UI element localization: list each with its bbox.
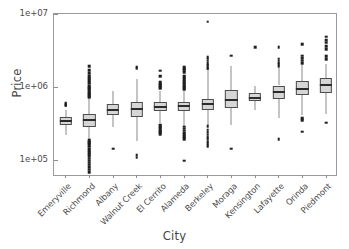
median-line bbox=[249, 97, 261, 99]
outlier-point bbox=[301, 62, 304, 65]
outlier-point bbox=[325, 48, 328, 51]
median-line bbox=[107, 109, 119, 111]
x-tick-mark bbox=[160, 175, 161, 178]
outlier-point bbox=[159, 133, 162, 136]
outlier-point bbox=[136, 154, 139, 157]
y-tick-label: 1e+07 bbox=[20, 8, 48, 18]
outlier-point bbox=[112, 148, 115, 151]
outlier-point bbox=[136, 67, 139, 70]
boxplot-el-cerrito bbox=[149, 14, 173, 175]
whisker-upper bbox=[65, 110, 66, 117]
outlier-point bbox=[278, 138, 281, 141]
outlier-point bbox=[88, 169, 91, 172]
whisker-lower bbox=[278, 99, 279, 118]
outlier-point bbox=[301, 130, 304, 133]
outlier-point bbox=[325, 42, 328, 45]
whisker-upper bbox=[184, 91, 185, 102]
outlier-point bbox=[278, 46, 281, 49]
x-tick-mark bbox=[184, 175, 185, 178]
outlier-point bbox=[88, 166, 91, 169]
whisker-upper bbox=[160, 91, 161, 103]
x-tick-mark bbox=[113, 175, 114, 178]
outlier-point bbox=[183, 71, 186, 74]
whisker-lower bbox=[207, 110, 208, 125]
whisker-lower bbox=[113, 115, 114, 127]
outlier-point bbox=[183, 159, 186, 162]
x-tick-mark bbox=[231, 175, 232, 178]
outlier-point bbox=[207, 145, 210, 148]
x-tick-mark bbox=[65, 175, 66, 178]
whisker-upper bbox=[89, 99, 90, 114]
whisker-lower bbox=[65, 125, 66, 135]
whisker-upper bbox=[302, 65, 303, 81]
median-line bbox=[154, 106, 166, 108]
boxplot-berkeley bbox=[196, 14, 220, 175]
x-tick-mark bbox=[255, 175, 256, 178]
whisker-upper bbox=[207, 70, 208, 99]
outlier-point bbox=[325, 35, 328, 38]
outlier-point bbox=[88, 65, 91, 68]
whisker-upper bbox=[231, 66, 232, 90]
outlier-point bbox=[136, 156, 139, 159]
outlier-point bbox=[183, 88, 186, 91]
whisker-lower bbox=[136, 117, 137, 141]
plot-area: 1e+071e+061e+05EmeryvilleRichmondAlbanyW… bbox=[53, 13, 337, 176]
x-tick-mark bbox=[302, 175, 303, 178]
whisker-lower bbox=[231, 108, 232, 125]
x-axis-label: City bbox=[0, 229, 349, 243]
outlier-point bbox=[325, 45, 328, 48]
outlier-point bbox=[88, 96, 91, 99]
whisker-lower bbox=[255, 101, 256, 110]
outlier-point bbox=[88, 139, 91, 142]
whisker-upper bbox=[136, 79, 137, 101]
outlier-point bbox=[207, 68, 210, 71]
whisker-upper bbox=[255, 86, 256, 94]
median-line bbox=[273, 91, 285, 93]
x-tick-mark bbox=[136, 175, 137, 178]
boxplot-emeryville bbox=[54, 14, 78, 175]
boxplot-moraga bbox=[220, 14, 244, 175]
median-line bbox=[178, 105, 190, 107]
boxplot-alameda bbox=[172, 14, 196, 175]
outlier-point bbox=[230, 148, 233, 151]
whisker-lower bbox=[184, 111, 185, 126]
boxplot-orinda bbox=[291, 14, 315, 175]
outlier-point bbox=[230, 54, 233, 57]
outlier-point bbox=[278, 65, 281, 68]
median-line bbox=[320, 84, 332, 86]
outlier-point bbox=[254, 46, 257, 49]
whisker-lower bbox=[302, 95, 303, 115]
median-line bbox=[60, 120, 72, 122]
x-tick-mark bbox=[278, 175, 279, 178]
y-tick-label: 1e+06 bbox=[20, 81, 48, 91]
outlier-point bbox=[65, 102, 68, 105]
boxplot-albany bbox=[101, 14, 125, 175]
outlier-point bbox=[159, 70, 162, 73]
boxplot-walnut-creek bbox=[125, 14, 149, 175]
boxplot-piedmont bbox=[314, 14, 338, 175]
whisker-upper bbox=[278, 68, 279, 86]
outlier-point bbox=[207, 20, 210, 23]
median-line bbox=[83, 119, 95, 121]
boxplot-richmond bbox=[78, 14, 102, 175]
outlier-point bbox=[88, 157, 91, 160]
median-line bbox=[202, 103, 214, 105]
outlier-point bbox=[207, 125, 210, 128]
boxplot-lafayette bbox=[267, 14, 291, 175]
plot-inner: 1e+071e+061e+05EmeryvilleRichmondAlbanyW… bbox=[54, 14, 336, 175]
x-tick-mark bbox=[326, 175, 327, 178]
whisker-upper bbox=[326, 64, 327, 78]
outlier-point bbox=[301, 119, 304, 122]
median-line bbox=[296, 88, 308, 90]
outlier-point bbox=[159, 87, 162, 90]
outlier-point bbox=[159, 75, 162, 78]
outlier-point bbox=[301, 43, 304, 46]
y-tick-label: 1e+05 bbox=[20, 154, 48, 164]
whisker-lower bbox=[160, 111, 161, 122]
outlier-point bbox=[325, 121, 328, 124]
whisker-lower bbox=[326, 93, 327, 114]
outlier-point bbox=[325, 58, 328, 61]
median-line bbox=[225, 99, 237, 101]
x-tick-mark bbox=[207, 175, 208, 178]
boxplot-figure: Price City 1e+071e+061e+05EmeryvilleRich… bbox=[0, 0, 349, 249]
